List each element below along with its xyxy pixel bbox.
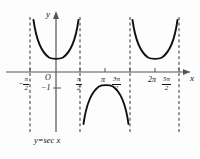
function-caption: y=sec x	[34, 136, 60, 145]
xtick-denominator: 2	[112, 85, 121, 92]
xtick-label-pi-over-2: π2	[76, 75, 82, 92]
secant-branch-middle	[84, 85, 129, 124]
xtick-label-three-pi-over-2: 3π2	[112, 75, 121, 92]
y-axis-label: y	[46, 10, 50, 19]
x-axis-label: x	[190, 74, 194, 83]
xtick-denominator: 2	[23, 85, 29, 92]
xtick-label-five-pi-over-2: 5π2	[162, 75, 171, 92]
xtick-label-pi: π	[101, 76, 105, 84]
xtick-label-two-pi: 2π	[148, 76, 156, 84]
ytick-label-minus-one: −1	[41, 84, 50, 92]
origin-label: O	[45, 74, 51, 82]
xtick-denominator: 2	[76, 85, 82, 92]
secant-graph-figure: y x O −π2 π2 π 3π2 2π 5π2 −1 y=sec x	[0, 0, 200, 159]
secant-branch-right	[133, 20, 178, 59]
xtick-denominator: 2	[162, 85, 171, 92]
xtick-label-neg-pi-over-2: −π2	[18, 75, 29, 92]
